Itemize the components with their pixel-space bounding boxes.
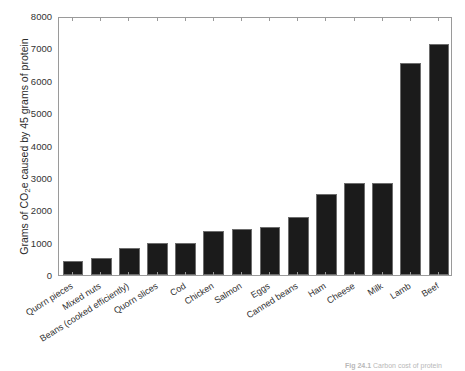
x-tick-mark	[72, 272, 73, 276]
bar	[316, 194, 337, 275]
x-tick-mark	[354, 272, 355, 276]
bar	[175, 243, 196, 275]
x-tick-mark-top	[410, 17, 411, 21]
bar	[91, 258, 112, 275]
x-tick-mark-top	[72, 17, 73, 21]
x-tick-mark	[297, 272, 298, 276]
bar	[147, 243, 168, 275]
bar	[344, 183, 365, 275]
x-tick-mark-top	[213, 17, 214, 21]
bar	[429, 44, 450, 275]
y-axis-label: Grams of CO2e caused by 45 grams of prot…	[16, 17, 32, 276]
figure-caption: Fig 24.1 Carbon cost of protein	[345, 362, 442, 370]
x-tick-mark-top	[325, 17, 326, 21]
y-axis-label-before: Grams of CO	[18, 193, 30, 255]
x-tick-mark	[241, 272, 242, 276]
x-tick-mark-top	[100, 17, 101, 21]
x-tick-mark	[213, 272, 214, 276]
y-axis-label-after: e caused by 45 grams of protein	[18, 38, 30, 188]
caption-text: Carbon cost of protein	[371, 362, 442, 369]
x-tick-mark	[382, 272, 383, 276]
plot-area	[58, 17, 452, 276]
x-tick-mark	[269, 272, 270, 276]
x-tick-mark-top	[128, 17, 129, 21]
x-tick-mark	[185, 272, 186, 276]
caption-label: Fig 24.1	[345, 362, 371, 369]
x-tick-mark-top	[157, 17, 158, 21]
bar	[372, 183, 393, 275]
x-tick-mark-top	[438, 17, 439, 21]
bar	[63, 261, 84, 275]
x-tick-mark-top	[185, 17, 186, 21]
x-tick-mark-top	[297, 17, 298, 21]
x-tick-mark-top	[241, 17, 242, 21]
bar	[400, 63, 421, 275]
y-axis-label-subscript: 2	[23, 188, 32, 192]
x-tick-mark-top	[382, 17, 383, 21]
bar	[232, 229, 253, 275]
x-tick-mark	[100, 272, 101, 276]
bars-layer	[59, 18, 451, 275]
x-tick-mark	[438, 272, 439, 276]
x-tick-mark-top	[354, 17, 355, 21]
x-tick-mark	[128, 272, 129, 276]
bar	[203, 231, 224, 275]
x-tick-mark	[157, 272, 158, 276]
x-tick-mark-top	[269, 17, 270, 21]
bar	[260, 227, 281, 275]
x-tick-mark	[325, 272, 326, 276]
bar	[119, 248, 140, 275]
chart-figure: Grams of CO2e caused by 45 grams of prot…	[0, 0, 465, 371]
bar	[288, 217, 309, 275]
x-tick-mark	[410, 272, 411, 276]
